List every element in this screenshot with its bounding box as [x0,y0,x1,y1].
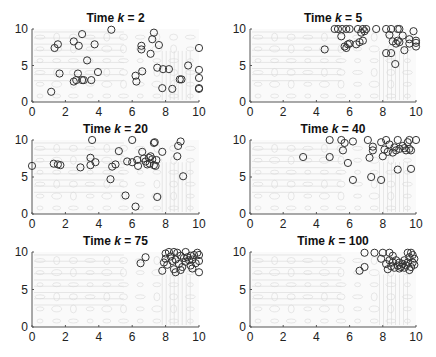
x-tick-label: 6 [346,330,353,344]
y-tick-label: 0 [239,320,246,334]
y-tick-label: 0 [239,207,246,221]
subplot-title: Time k = 40 [301,122,366,136]
y-tick-label: 10 [15,22,29,36]
subplot-title: Time k = 100 [297,234,369,248]
y-tick-label: 0 [21,95,28,109]
x-tick-label: 10 [409,330,423,344]
y-tick-label: 0 [239,95,246,109]
subplot-panel-6: Time k = 10002468100510 [233,234,423,344]
x-tick-label: 2 [280,217,287,231]
subplot-panel-2: Time k = 502468100510 [233,11,423,119]
y-tick-label: 10 [15,133,29,147]
x-tick-label: 8 [162,330,169,344]
y-tick-label: 10 [233,133,247,147]
subplot-panel-5: Time k = 7502468100510 [15,234,206,344]
subplot-panel-1: Time k = 202468100510 [15,11,206,119]
y-tick-label: 5 [239,170,246,184]
x-tick-label: 0 [247,330,254,344]
subplot-title: Time k = 2 [86,11,144,25]
y-tick-label: 5 [239,283,246,297]
y-tick-label: 0 [21,207,28,221]
subplot-title: Time k = 75 [83,234,148,248]
subplot-panel-4: Time k = 4002468100510 [233,122,423,231]
contour-background [32,29,199,102]
contour-background [250,29,416,102]
x-tick-label: 0 [29,105,36,119]
x-tick-label: 2 [280,105,287,119]
x-tick-label: 4 [95,217,102,231]
x-tick-label: 4 [313,217,320,231]
y-tick-label: 10 [15,245,29,259]
x-tick-label: 6 [129,330,136,344]
x-tick-label: 8 [379,105,386,119]
y-tick-label: 10 [233,22,247,36]
x-tick-label: 2 [62,217,69,231]
x-tick-label: 4 [95,330,102,344]
x-tick-label: 0 [29,330,36,344]
x-tick-label: 10 [192,105,206,119]
y-tick-label: 0 [21,320,28,334]
x-tick-label: 6 [346,105,353,119]
x-tick-label: 10 [409,105,423,119]
y-tick-label: 10 [233,245,247,259]
x-tick-label: 2 [62,330,69,344]
x-tick-label: 4 [313,330,320,344]
x-tick-label: 8 [162,217,169,231]
x-tick-label: 2 [62,105,69,119]
subplot-title: Time k = 5 [304,11,362,25]
x-tick-label: 0 [247,105,254,119]
x-tick-label: 8 [379,330,386,344]
y-tick-label: 5 [21,59,28,73]
x-tick-label: 6 [129,217,136,231]
y-tick-label: 5 [21,283,28,297]
x-tick-label: 2 [280,330,287,344]
x-tick-label: 10 [192,217,206,231]
subplot-panel-3: Time k = 2002468100510 [15,122,206,231]
x-tick-label: 10 [192,330,206,344]
subplot-title: Time k = 20 [83,122,148,136]
y-tick-label: 5 [239,59,246,73]
y-tick-label: 5 [21,170,28,184]
x-tick-label: 6 [346,217,353,231]
x-tick-label: 4 [95,105,102,119]
x-tick-label: 8 [162,105,169,119]
x-tick-label: 8 [379,217,386,231]
x-tick-label: 0 [247,217,254,231]
x-tick-label: 4 [313,105,320,119]
contour-background [32,252,199,327]
x-tick-label: 10 [409,217,423,231]
x-tick-label: 0 [29,217,36,231]
figure-canvas: Time k = 202468100510Time k = 5024681005… [0,0,436,357]
x-tick-label: 6 [129,105,136,119]
